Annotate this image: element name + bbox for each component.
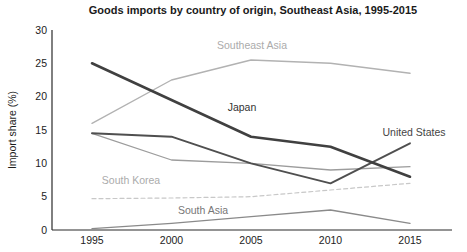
import-share-line-chart: Goods imports by country of origin, Sout… — [0, 0, 467, 252]
x-tick-label: 2010 — [319, 234, 343, 246]
y-tick-label: 30 — [35, 24, 47, 36]
series-label-south-asia: South Asia — [178, 204, 228, 216]
series-line-unlabeled — [92, 133, 410, 170]
y-tick-label: 20 — [35, 90, 47, 102]
series-label-south-korea: South Korea — [102, 174, 161, 186]
y-tick-label: 10 — [35, 157, 47, 169]
chart-title: Goods imports by country of origin, Sout… — [89, 4, 417, 16]
x-tick-label: 1995 — [80, 234, 104, 246]
chart-canvas: Goods imports by country of origin, Sout… — [0, 0, 467, 252]
series-line-south-asia — [92, 210, 410, 229]
plot-area: 05101520253019952000200520102015Southeas… — [35, 24, 452, 246]
x-tick-label: 2005 — [239, 234, 263, 246]
y-axis-title: Import share (%) — [6, 91, 18, 169]
x-tick-label: 2000 — [160, 234, 184, 246]
y-tick-label: 5 — [41, 190, 47, 202]
series-label-united-states: United States — [382, 126, 445, 138]
series-line-southeast-asia — [92, 60, 410, 123]
x-tick-label: 2015 — [398, 234, 422, 246]
y-tick-label: 0 — [41, 224, 47, 236]
series-line-japan — [92, 63, 410, 176]
series-label-japan: Japan — [228, 101, 257, 113]
y-tick-label: 25 — [35, 57, 47, 69]
series-label-southeast-asia: Southeast Asia — [217, 39, 287, 51]
y-tick-label: 15 — [35, 124, 47, 136]
